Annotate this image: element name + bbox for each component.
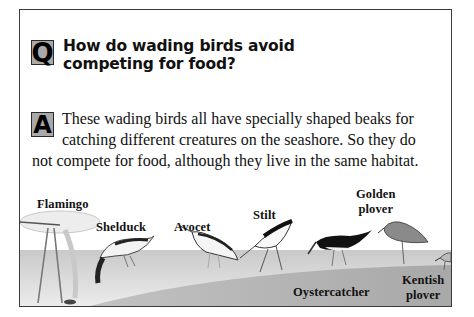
label-kentish-plover-line2: plover (402, 288, 444, 303)
label-oystercatcher: Oystercatcher (293, 285, 370, 300)
label-kentish-plover-line1: Kentish (402, 273, 444, 288)
label-flamingo-text: Flamingo (37, 197, 89, 212)
label-shelduck-text: Shelduck (96, 220, 146, 235)
answer-line-2: catching different creatures on the seas… (62, 131, 416, 148)
label-oystercatcher-text: Oystercatcher (293, 285, 370, 300)
answer-line-1: These wading birds all have specially sh… (62, 110, 414, 127)
answer-line-3: not compete for food, although they live… (32, 152, 419, 169)
label-stilt: Stilt (253, 208, 276, 223)
label-avocet-text: Avocet (174, 220, 210, 235)
label-kentish-plover: Kentish plover (402, 273, 444, 303)
question-line-1: How do wading birds avoid (63, 37, 363, 55)
answer-text: These wading birds all have specially sh… (32, 108, 452, 171)
question-badge: Q (31, 40, 54, 65)
label-golden-plover-line1: Golden (356, 187, 396, 202)
shore-illustration: Flamingo Shelduck Avocet Stilt Oystercat… (20, 170, 451, 306)
label-golden-plover: Golden plover (356, 187, 396, 217)
label-stilt-text: Stilt (253, 208, 276, 223)
label-avocet: Avocet (174, 220, 210, 235)
label-flamingo: Flamingo (37, 197, 89, 212)
label-shelduck: Shelduck (96, 220, 146, 235)
question-title: How do wading birds avoid competing for … (63, 37, 363, 73)
question-line-2: competing for food? (63, 55, 363, 73)
question-badge-letter: Q (31, 38, 53, 68)
qa-panel: Q How do wading birds avoid competing fo… (19, 9, 452, 307)
label-golden-plover-line2: plover (356, 202, 396, 217)
